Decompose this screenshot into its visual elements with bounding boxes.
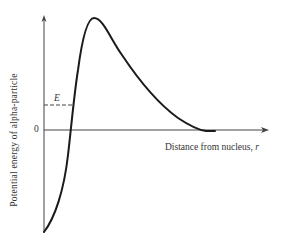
- energy-level-label: E: [54, 93, 60, 103]
- origin-label: 0: [34, 124, 39, 134]
- potential-energy-diagram: [0, 0, 282, 243]
- potential-energy-curve: [44, 18, 215, 232]
- x-axis-label: Distance from nucleus, r: [165, 142, 259, 152]
- y-axis-label: Potential energy of alpha-particle: [9, 73, 19, 207]
- x-axis-variable: r: [255, 142, 259, 152]
- x-axis-label-text: Distance from nucleus,: [165, 142, 255, 152]
